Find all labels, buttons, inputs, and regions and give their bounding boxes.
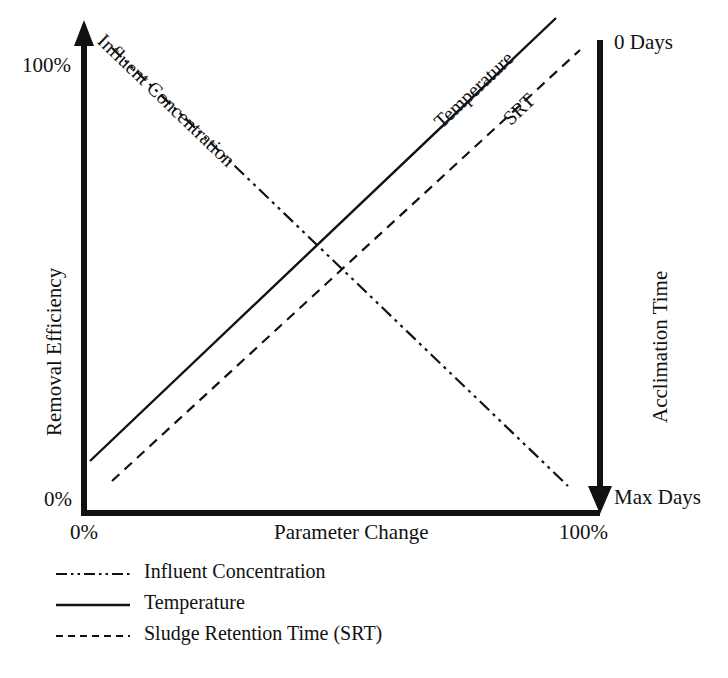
y-axis-left-tick-top: 100%	[22, 55, 71, 76]
legend-swatch-dash-dot-dot-icon	[56, 568, 130, 580]
legend-item-srt: Sludge Retention Time (SRT)	[56, 622, 576, 653]
legend: Influent Concentration Temperature Sludg…	[56, 560, 576, 653]
y-axis-right-arrowhead	[588, 486, 612, 514]
figure-container: 100% 0% Removal Efficiency 0% 100% Param…	[0, 0, 728, 678]
legend-item-temperature: Temperature	[56, 591, 576, 622]
y-axis-right-tick-top: 0 Days	[614, 32, 673, 53]
legend-swatch-dashed-icon	[56, 630, 130, 642]
legend-label-sludge-retention-time: Sludge Retention Time (SRT)	[144, 622, 382, 645]
y-axis-right-title: Acclimation Time	[650, 271, 671, 423]
legend-label-temperature: Temperature	[144, 591, 245, 614]
y-axis-left	[74, 20, 94, 513]
x-axis-title: Parameter Change	[274, 522, 429, 543]
y-axis-left-tick-bottom: 0%	[44, 489, 72, 510]
y-axis-right-tick-bottom: Max Days	[614, 487, 701, 508]
legend-swatch-solid-icon	[56, 599, 130, 611]
y-axis-left-title: Removal Efficiency	[44, 268, 65, 436]
y-axis-left-arrowhead	[74, 20, 94, 46]
x-axis-tick-left: 0%	[70, 522, 98, 543]
legend-item-influent-concentration: Influent Concentration	[56, 560, 576, 591]
y-axis-right	[588, 40, 612, 514]
legend-label-influent-concentration: Influent Concentration	[144, 560, 326, 583]
x-axis-tick-right: 100%	[559, 522, 608, 543]
